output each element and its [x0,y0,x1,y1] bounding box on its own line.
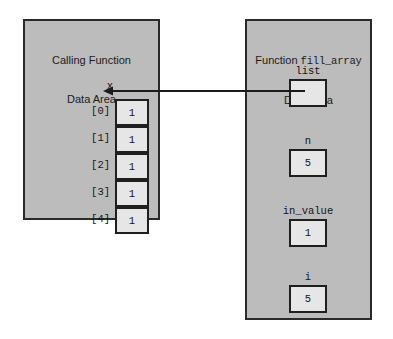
calling-function-data-area-panel: Calling Function Data Area x [0] [1] [2]… [23,19,160,220]
array-index-label-0: [0] [80,105,110,117]
array-cell-value-4: 1 [117,215,147,227]
fill-array-data-area-panel: Function fill_array Data Area list n 5 i… [245,19,372,320]
variable-value-i: 5 [291,293,325,305]
variable-value-n: 5 [291,157,325,169]
variable-value-in-value: 1 [291,227,325,239]
array-cell-4: 1 [115,207,149,234]
array-cell-value-0: 1 [117,107,147,119]
variable-box-in-value: 1 [289,219,327,247]
array-cell-value-3: 1 [117,188,147,200]
array-index-label-2: [2] [80,159,110,171]
calling-function-title-line1: Calling Function [25,54,158,67]
array-cell-1: 1 [115,126,149,153]
diagram-canvas: Calling Function Data Area x [0] [1] [2]… [0,0,393,339]
array-index-label-4: [4] [80,213,110,225]
variable-label-n: n [270,135,346,147]
variable-label-in-value: in_value [262,205,354,217]
array-cell-value-2: 1 [117,161,147,173]
variable-box-i: 5 [289,285,327,313]
array-x-label: x [93,80,127,92]
array-cell-2: 1 [115,153,149,180]
array-cell-3: 1 [115,180,149,207]
variable-label-i: i [270,271,346,283]
array-index-label-3: [3] [80,186,110,198]
variable-label-list: list [270,65,346,77]
array-index-label-1: [1] [80,132,110,144]
variable-box-n: 5 [289,149,327,177]
variable-box-list [289,79,327,107]
array-cell-0: 1 [115,99,149,126]
array-cell-value-1: 1 [117,134,147,146]
